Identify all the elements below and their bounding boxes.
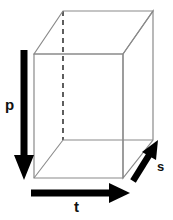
arrow-t <box>31 183 130 203</box>
cuboid-group <box>34 11 153 178</box>
arrow-t-head <box>109 183 130 203</box>
arrow-label-t: t <box>74 199 79 214</box>
cuboid-bottom-left-receding-edge <box>34 140 63 178</box>
arrow-label-p: p <box>5 97 14 112</box>
cuboid-axes-figure: p t s <box>0 0 173 220</box>
cuboid-top-face <box>34 11 153 54</box>
arrow-p <box>14 50 34 180</box>
arrow-p-head <box>14 155 34 180</box>
cuboid-front-face <box>34 54 123 178</box>
arrow-label-s: s <box>157 160 164 173</box>
figure-canvas <box>0 0 173 220</box>
arrow-s-shaft <box>133 152 151 181</box>
